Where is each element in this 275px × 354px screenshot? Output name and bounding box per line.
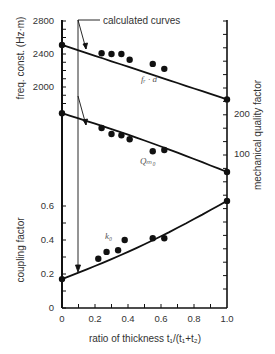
data-point <box>118 132 124 138</box>
x-tick-0.6: 0.6 <box>154 313 167 324</box>
x-tick-0: 0 <box>59 313 64 324</box>
data-point <box>224 169 230 175</box>
data-point <box>161 66 167 72</box>
callout <box>76 20 101 272</box>
data-point <box>118 51 124 57</box>
data-point <box>150 61 156 67</box>
data-point <box>150 235 156 241</box>
data-point <box>126 57 132 63</box>
data-point <box>59 110 65 116</box>
arrowhead-k <box>76 265 81 272</box>
data-point <box>59 42 65 48</box>
data-point <box>122 237 128 243</box>
y-axis-label-coupling: coupling factor <box>15 217 26 283</box>
curve-label-k: k₀ <box>105 231 112 241</box>
freq-tick-2800: 2800 <box>33 15 54 26</box>
data-point <box>103 249 109 255</box>
arrowhead-fd <box>83 43 88 49</box>
data-point <box>59 276 65 282</box>
data-point <box>224 96 230 102</box>
x-tick-0.2: 0.2 <box>88 313 101 324</box>
x-tick-0.4: 0.4 <box>121 313 134 324</box>
curve-label-q: Qₘ₀ <box>140 156 156 166</box>
data-point <box>161 147 167 153</box>
chart-container: 2800 2400 2000 0.6 0.4 0.2 0 200 100 0 0… <box>0 0 275 354</box>
freq-tick-2000: 2000 <box>33 81 54 92</box>
x-tick-0.8: 0.8 <box>187 313 200 324</box>
q-tick-200: 200 <box>234 108 250 119</box>
data-point <box>115 247 121 253</box>
calculated-curve <box>62 201 227 279</box>
k-tick-0.4: 0.4 <box>41 234 54 245</box>
data-point <box>224 198 230 204</box>
freq-tick-2400: 2400 <box>33 48 54 59</box>
data-point <box>95 256 101 262</box>
chart-svg: 2800 2400 2000 0.6 0.4 0.2 0 200 100 0 0… <box>0 0 275 354</box>
calculated-curve <box>62 45 227 100</box>
data-point <box>98 125 104 131</box>
y-axis-label-freq: freq. const. (Hz·m) <box>15 17 26 100</box>
data-point <box>108 51 114 57</box>
y-axis-label-q: mechanical quality factor <box>252 79 263 190</box>
x-axis-label: ratio of thickness t₁/(t₁+t₂) <box>89 333 201 344</box>
data-point <box>126 136 132 142</box>
callout-label: calculated curves <box>103 15 180 26</box>
k-tick-0.6: 0.6 <box>41 200 54 211</box>
k-tick-0.2: 0.2 <box>41 268 54 279</box>
k-tick-0: 0 <box>49 302 54 313</box>
data-point <box>98 50 104 56</box>
x-tick-1.0: 1.0 <box>220 313 233 324</box>
data-point <box>108 131 114 137</box>
q-tick-100: 100 <box>234 148 250 159</box>
axis-labels: ratio of thickness t₁/(t₁+t₂) freq. cons… <box>15 17 263 344</box>
data-point <box>150 148 156 154</box>
data-point <box>161 235 167 241</box>
curve-label-fd: fᵣ · d <box>141 74 157 84</box>
